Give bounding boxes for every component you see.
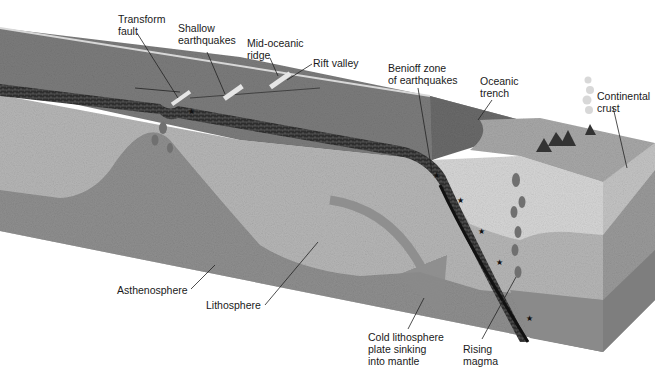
label-transform-fault: Transform fault bbox=[118, 13, 165, 37]
svg-text:★: ★ bbox=[496, 258, 503, 267]
volcanic-plume bbox=[583, 77, 595, 115]
svg-text:★: ★ bbox=[188, 107, 195, 116]
svg-text:★: ★ bbox=[478, 227, 485, 236]
label-rising-magma: Rising magma bbox=[463, 343, 498, 367]
label-oceanic-trench: Oceanic trench bbox=[480, 75, 519, 99]
label-asthenosphere: Asthenosphere bbox=[117, 284, 188, 296]
label-benioff-zone: Benioff zone of earthquakes bbox=[388, 62, 457, 86]
label-cold-lithosphere: Cold lithosphere plate sinking into mant… bbox=[368, 331, 444, 367]
svg-text:★: ★ bbox=[433, 171, 440, 180]
label-continental-crust: Continental crust bbox=[597, 90, 650, 114]
svg-text:★: ★ bbox=[526, 314, 533, 323]
label-rift-valley: Rift valley bbox=[313, 57, 359, 69]
label-mid-oceanic-ridge: Mid-oceanic ridge bbox=[247, 37, 304, 61]
svg-text:★: ★ bbox=[457, 196, 464, 205]
label-shallow-earthquakes: Shallow earthquakes bbox=[178, 22, 236, 46]
label-lithosphere: Lithosphere bbox=[206, 299, 261, 311]
